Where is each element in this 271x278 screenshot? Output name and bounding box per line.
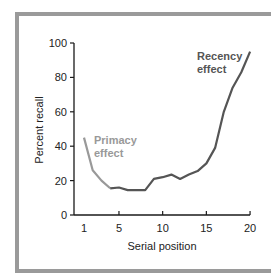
primacy-effect-label-line2: effect <box>94 147 124 159</box>
recency-effect-label: Recency <box>197 50 243 62</box>
y-axis-title: Percent recall <box>33 96 45 163</box>
x-tick-label: 10 <box>157 222 169 234</box>
y-tick-label: 60 <box>55 106 67 118</box>
y-tick-label: 20 <box>55 175 67 187</box>
x-tick-label: 15 <box>200 222 212 234</box>
recall-curve <box>110 52 250 191</box>
y-tick-label: 100 <box>49 37 67 49</box>
y-tick-label: 0 <box>61 209 67 221</box>
x-axis-title: Serial position <box>127 240 196 252</box>
y-tick-label: 40 <box>55 140 67 152</box>
serial-position-chart: 02040608010015101520 Serial position Per… <box>0 0 271 278</box>
x-tick-label: 5 <box>116 222 122 234</box>
y-tick-label: 80 <box>55 71 67 83</box>
primacy-effect-label: Primacy <box>94 134 138 146</box>
x-tick-label: 20 <box>244 222 256 234</box>
x-tick-label: 1 <box>81 222 87 234</box>
recency-effect-label-line2: effect <box>197 63 227 75</box>
